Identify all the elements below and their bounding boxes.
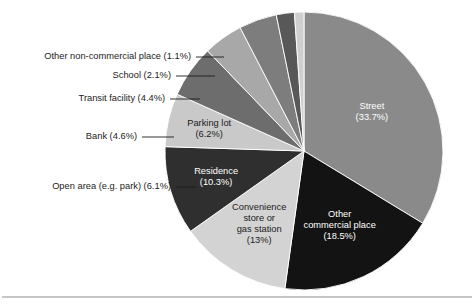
pie-callout-label: School (2.1%) (113, 70, 171, 80)
pie-callout-label: Other non-commercial place (1.1%) (44, 51, 191, 61)
pie-slices-group: Street (33.7%)Other commercial place (18… (165, 12, 443, 290)
pie-callout-label: Bank (4.6%) (86, 131, 137, 141)
pie-callout-label: Open area (e.g. park) (6.1%) (52, 181, 171, 191)
pie-slice-label: Street(33.7%) (356, 102, 389, 123)
pie-slice-label: Residence(10.3%) (194, 166, 238, 187)
pie-callout-label: Transit facility (4.4%) (79, 93, 165, 103)
pie-chart-figure: Street (33.7%)Other commercial place (18… (0, 0, 474, 308)
